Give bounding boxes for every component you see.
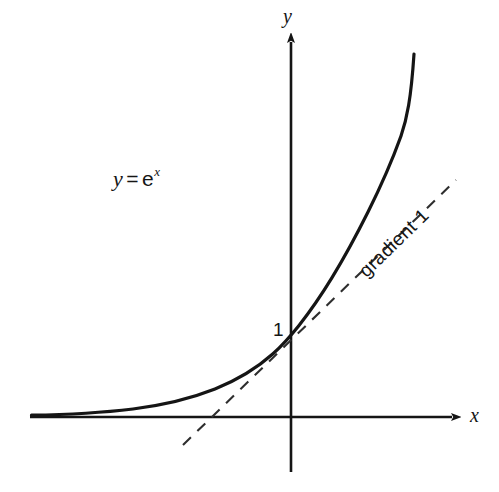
- exponential-curve: [32, 54, 415, 415]
- plot-canvas: [0, 0, 499, 492]
- curve-equation-label: y=ex: [113, 165, 161, 190]
- exponential-function-figure: y x 1 y=ex gradient 1: [0, 0, 499, 492]
- y-intercept-tick-label: 1: [273, 320, 284, 339]
- y-axis-label: y: [283, 6, 292, 26]
- equation-variable-y: y: [113, 166, 123, 191]
- equation-exponent-x: x: [154, 164, 160, 179]
- equation-base-e: e: [142, 167, 154, 190]
- x-axis-label: x: [470, 405, 479, 425]
- equation-equals-sign: =: [123, 167, 142, 190]
